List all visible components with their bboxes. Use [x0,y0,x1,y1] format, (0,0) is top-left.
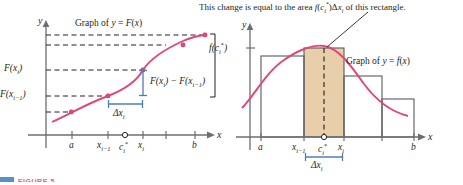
right-xtick-label-xim1: xi−1 [292,143,306,154]
right-graph-title: Graph of y = f(x) [346,57,410,67]
right-xtick-label-xi: xi [338,143,344,154]
right-graph-svg [228,0,463,170]
left-graph-title: Graph of y = F(x) [75,19,142,29]
left-xtick-label-a: a [69,141,74,151]
left-delta-label: Δxi [113,109,125,120]
right-ci-open-marker [321,134,326,139]
figure-caption: FIGURE 5 [0,174,55,185]
left-ci-open-marker [122,132,127,137]
left-xtick-label-xim1: xi−1 [97,141,111,152]
left-panel: y x Graph of y = F(x) F(xi) F(xi−1) a xi… [0,0,232,170]
left-difference-label: F(xi) − F(xi−1) [150,77,205,88]
left-xtick-label-ci: ci* [119,141,128,155]
left-delta-measure [108,100,143,108]
right-xtick-label-ci: ci* [318,143,327,157]
right-axis-y-label: y [242,20,246,30]
left-ytick-label-fxi: F(xi) [4,64,22,75]
figure-caption-label: FIGURE 5 [18,177,55,182]
right-xtick-label-b: b [411,143,416,153]
right-panel: y x Graph of y = f(x) f(ci*) a xi−1 ci* … [228,0,463,170]
right-ytick-label-fci: f(ci*) [209,42,227,56]
right-delta-label: Δxi [311,161,323,172]
figure-container: This change is equal to the area f(ci*)Δ… [0,0,463,185]
right-axis-x-label: x [428,132,432,142]
left-xtick-label-xi: xi [138,141,144,152]
caption-leader-line [327,12,368,47]
right-xtick-label-a: a [258,143,263,153]
figure-caption-bar [0,177,14,182]
left-axis-y-label: y [38,16,42,26]
left-xtick-label-b: b [192,141,197,151]
left-axis-x-label: x [217,130,221,140]
left-ytick-label-fxim1: F(xi−1) [0,90,26,101]
